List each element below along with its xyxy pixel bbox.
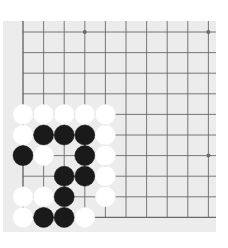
black-stone[interactable] [54,166,74,186]
black-stone[interactable] [54,125,74,145]
white-stone[interactable] [13,104,33,124]
white-stone[interactable] [95,125,115,145]
white-stone[interactable] [54,104,74,124]
white-stone[interactable] [13,187,33,207]
white-stone[interactable] [75,207,95,227]
white-stone[interactable] [34,187,54,207]
white-stone[interactable] [95,187,115,207]
go-board-grid[interactable] [0,0,228,248]
white-stone[interactable] [95,104,115,124]
white-stone[interactable] [75,104,95,124]
star-point [206,154,210,158]
black-stone[interactable] [75,166,95,186]
white-stone[interactable] [13,207,33,227]
white-stone[interactable] [95,166,115,186]
black-stone[interactable] [13,146,33,166]
black-stone[interactable] [34,125,54,145]
star-point [83,30,87,34]
black-stone[interactable] [54,207,74,227]
star-point [206,30,210,34]
black-stone[interactable] [75,125,95,145]
black-stone[interactable] [75,146,95,166]
white-stone[interactable] [13,125,33,145]
black-stone[interactable] [54,187,74,207]
white-stone[interactable] [34,146,54,166]
black-stone[interactable] [34,207,54,227]
white-stone[interactable] [34,104,54,124]
white-stone[interactable] [95,146,115,166]
